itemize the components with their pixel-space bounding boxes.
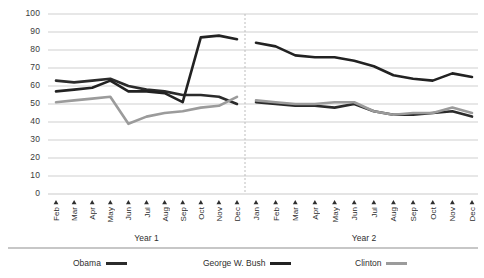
x-axis-tick-label: Nov [448,207,457,222]
chart-plot-area [0,0,484,278]
legend-item-label: George W. Bush [203,258,265,268]
y-axis-tick-label: 80 [8,45,40,54]
x-axis-tick-label: Aug [161,207,170,222]
y-axis-tick-label: 90 [8,27,40,36]
legend-item-george-w-bush[interactable]: George W. Bush [203,258,291,268]
x-axis-tick-label: Mar [70,207,79,221]
y-axis-tick-label: 50 [8,99,40,108]
x-axis-tick-label: Feb [272,207,281,221]
legend-item-clinton[interactable]: Clinton [355,258,407,268]
year-group-label: Year 2 [324,233,404,243]
y-axis-tick-label: 10 [8,171,40,180]
year-group-label: Year 1 [107,233,187,243]
y-axis-tick-label: 40 [8,117,40,126]
x-axis-tick-label: Jun [124,207,133,220]
x-axis-tick-label: May [331,207,340,222]
x-axis-tick-label: Sep [179,207,188,222]
legend-item-label: Clinton [355,258,381,268]
x-axis-tick-label: Oct [429,207,438,220]
x-axis-tick-label: Dec [468,207,477,222]
series-clinton [56,97,472,124]
x-axis-tick-label: Jan [252,207,261,220]
legend-item-label: Obama [73,258,101,268]
x-axis-tick-label: Dec [233,207,242,222]
x-axis-tick-label: Sep [409,207,418,222]
y-axis-tick-label: 0 [8,189,40,198]
x-axis-tick-label: Nov [215,207,224,222]
x-axis-tick-label: Mar [291,207,300,221]
y-axis-tick-label: 60 [8,81,40,90]
approval-rating-chart: 1009080706050403020100 FebMarAprMayJunJu… [0,0,484,278]
x-tick-marks [54,200,475,204]
x-axis-tick-label: Oct [197,207,206,220]
x-axis-tick-label: Apr [88,207,97,220]
y-axis-tick-label: 100 [8,9,40,18]
x-axis-tick-label: May [106,207,115,222]
x-axis-tick-label: Apr [311,207,320,220]
x-axis-tick-label: Jul [143,207,152,218]
x-axis-tick-label: Feb [52,207,61,221]
legend-color-swatch [106,262,127,265]
x-axis-tick-label: Jun [350,207,359,220]
series-george-w-bush [56,36,472,103]
y-axis-tick-label: 30 [8,135,40,144]
legend-color-swatch [270,262,291,265]
legend-item-obama[interactable]: Obama [73,258,127,268]
legend-color-swatch [386,262,407,265]
x-axis-tick-label: Jul [370,207,379,218]
y-axis-tick-label: 20 [8,153,40,162]
x-axis-tick-label: Aug [389,207,398,222]
y-axis-tick-label: 70 [8,63,40,72]
